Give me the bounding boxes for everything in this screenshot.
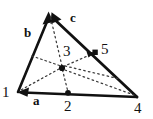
edge-4-to-1-line <box>23 93 137 98</box>
node-dot-3 <box>59 65 65 71</box>
diagram-canvas: 1 4 2 5 3 a b c <box>0 0 153 119</box>
node-label-5: 5 <box>101 42 109 57</box>
node-dot-2 <box>65 90 71 96</box>
node-dot-5 <box>92 50 97 55</box>
node-label-2: 2 <box>64 99 72 114</box>
node-label-4: 4 <box>134 101 142 116</box>
dotted-edges <box>21 17 134 95</box>
node-label-3: 3 <box>63 44 71 59</box>
dotted-center-to-node2-line <box>63 70 68 90</box>
node-label-1: 1 <box>2 85 10 100</box>
edge-label-c: c <box>70 11 76 24</box>
edge-1-to-apex-line <box>18 18 49 92</box>
dotted-center-to-upper-left-line <box>32 56 60 66</box>
edge-label-b: b <box>24 26 31 39</box>
triangle-mesh-figure <box>0 0 153 119</box>
edge-label-a: a <box>33 94 40 107</box>
